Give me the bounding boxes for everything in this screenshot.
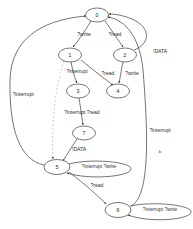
state-machine-diagram: 0 1 2 3 4 7 5 6: [0, 0, 193, 229]
self-loop-label-6: ?interrupt ?write: [143, 207, 178, 212]
edge-label-0-to-1: ?write: [77, 31, 91, 37]
node-2-label: 2: [124, 52, 127, 58]
node-2[interactable]: 2: [114, 48, 137, 62]
node-6-label: 6: [117, 207, 120, 213]
edge-label-0-to-2: ?read: [109, 31, 122, 37]
edge-label-5-to-0: ?interrupt: [12, 91, 34, 97]
edge-2-to-4: [119, 62, 123, 83]
annotation-marker-b: b: [159, 149, 162, 154]
node-3[interactable]: 3: [67, 84, 90, 98]
self-loop-label-5: ?interrupt ?write: [82, 164, 117, 169]
edge-6-to-0: [108, 17, 147, 206]
graph-canvas: 0 1 2 3 4 7 5 6: [0, 0, 193, 229]
edge-1-to-5-dashed: [52, 61, 64, 159]
edge-label-1-to-3: ?interrupt: [66, 68, 88, 74]
node-7-label: 7: [83, 130, 86, 136]
node-1[interactable]: 1: [59, 48, 82, 62]
node-4[interactable]: 4: [107, 84, 130, 98]
node-5-label: 5: [56, 164, 59, 170]
node-0-label: 0: [96, 12, 99, 18]
node-4-label: 4: [117, 88, 120, 94]
node-6[interactable]: 6: [105, 203, 131, 218]
edge-label-1-to-4: ?read: [102, 70, 115, 76]
node-5[interactable]: 5: [44, 160, 70, 175]
node-7[interactable]: 7: [73, 126, 96, 140]
edge-label-7-to-5: !DATA: [72, 146, 87, 152]
edge-label-2-to-0: !DATA: [153, 48, 168, 54]
node-1-label: 1: [69, 52, 72, 58]
node-0[interactable]: 0: [86, 8, 109, 22]
node-3-label: 3: [77, 88, 80, 94]
edge-label-6-to-0: ?interrupt: [149, 127, 171, 133]
edge-label-5-to-6: ?read: [91, 182, 104, 188]
edge-label-3-to-7: ?interrupt ?read: [64, 109, 100, 115]
edge-label-2-to-4: ?write: [125, 70, 139, 76]
